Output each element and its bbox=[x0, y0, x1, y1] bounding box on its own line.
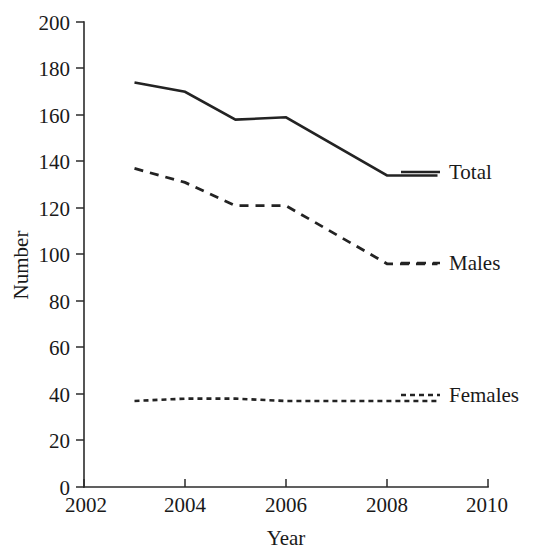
y-tick-label-40: 40 bbox=[49, 383, 70, 407]
x-tick-label-2008: 2008 bbox=[366, 493, 408, 517]
line-chart: 200 180 160 140 120 100 80 60 40 20 0 20… bbox=[0, 0, 534, 553]
x-tick-label-2010: 2010 bbox=[466, 493, 508, 517]
y-tick-label-200: 200 bbox=[39, 11, 71, 35]
series-line-males bbox=[135, 168, 438, 263]
y-tick-label-60: 60 bbox=[49, 336, 70, 360]
y-tick-label-20: 20 bbox=[49, 429, 70, 453]
chart-page: 200 180 160 140 120 100 80 60 40 20 0 20… bbox=[0, 0, 534, 553]
y-tick-label-160: 160 bbox=[39, 104, 71, 128]
y-tick-label-140: 140 bbox=[39, 150, 71, 174]
y-axis-title: Number bbox=[9, 231, 33, 300]
y-tick-label-180: 180 bbox=[39, 57, 71, 81]
x-axis-ticks bbox=[84, 479, 488, 487]
x-tick-label-2002: 2002 bbox=[65, 493, 107, 517]
x-tick-label-2004: 2004 bbox=[164, 493, 207, 517]
series-label-females: Females bbox=[449, 383, 519, 407]
y-tick-label-120: 120 bbox=[39, 197, 71, 221]
y-tick-label-80: 80 bbox=[49, 290, 70, 314]
series-label-males: Males bbox=[449, 251, 500, 275]
y-tick-label-100: 100 bbox=[39, 243, 71, 267]
series-line-total bbox=[135, 82, 438, 175]
x-tick-label-2006: 2006 bbox=[265, 493, 307, 517]
series-label-total: Total bbox=[449, 160, 492, 184]
y-axis-ticks bbox=[76, 22, 84, 487]
x-axis-title: Year bbox=[267, 526, 306, 550]
series-line-females bbox=[135, 399, 438, 401]
